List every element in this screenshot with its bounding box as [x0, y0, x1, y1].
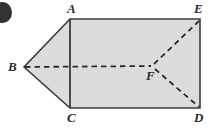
pentagon-fill [24, 19, 200, 108]
vertex-label-f: F [146, 69, 155, 82]
geometry-figure [0, 0, 212, 129]
vertex-label-e: E [194, 2, 203, 15]
vertex-label-c: C [67, 111, 76, 124]
vertex-label-b: B [8, 60, 17, 73]
vertex-label-d: D [194, 111, 203, 124]
vertex-label-a: A [67, 2, 76, 15]
figure-canvas: A B C D E F [0, 0, 212, 129]
